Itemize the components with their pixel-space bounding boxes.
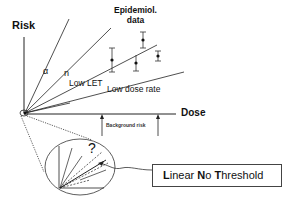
neutron-label: n	[64, 68, 69, 78]
zoom-guide-right	[27, 116, 92, 140]
low-dose-rate-label: Low dose rate	[107, 84, 160, 94]
background-risk-label: Background risk	[106, 122, 145, 128]
y-axis-label: Risk	[12, 19, 35, 31]
low-let-label: Low LET	[69, 78, 103, 88]
question-mark: ?	[88, 140, 96, 156]
lnt-label-box: Linear No Threshold	[152, 164, 282, 187]
zoom-guide-left	[21, 116, 44, 172]
extra-curve	[25, 103, 70, 113]
alpha-label: α	[43, 66, 48, 76]
callout-connector	[103, 164, 152, 170]
x-axis-label: Dose	[181, 107, 205, 118]
inset-magnifier	[45, 139, 115, 195]
epidemiological-data-label: Epidemiol. data	[114, 5, 157, 25]
